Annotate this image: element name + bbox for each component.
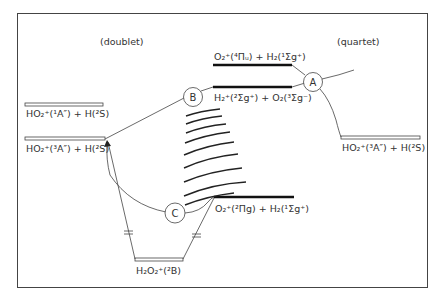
level-h2-2sigma-label: H₂⁺(²Σg⁺) + O₂(³Σg⁻) [214,92,312,103]
level-ho2-3a-right [341,136,420,139]
level-ho2-1a [25,103,103,106]
energy-level-diagram: (doublet) (quartet) HO₂⁺(¹A″) + H(²S) HO… [0,0,444,300]
quartet-label: (quartet) [337,36,380,47]
continuum-curves [184,109,246,205]
level-ho2-3a-left [25,137,105,140]
crossing-b: B [184,88,203,107]
level-h2o2 [135,258,183,261]
level-o2-2pi-label: O₂⁺(²Πg) + H₂(¹Σg⁺) [215,203,309,214]
crossing-a: A [304,73,323,92]
crossing-c: C [165,203,185,223]
doublet-label: (doublet) [100,36,144,47]
level-ho2-3a-right-label: HO₂⁺(³A″) + H(²S) [342,142,425,153]
level-o2-4pi-label: O₂⁺(⁴Πᵤ) + H₂(¹Σg⁺) [214,51,306,62]
svg-text:C: C [172,208,179,219]
level-h2o2-label: H₂O₂⁺(²B) [136,265,181,276]
svg-text:B: B [190,92,197,103]
axis-break-marks [124,231,201,237]
svg-text:A: A [310,77,317,88]
level-ho2-3a-left-label: HO₂⁺(³A″) + H(²S) [26,143,109,154]
level-ho2-1a-label: HO₂⁺(¹A″) + H(²S) [26,108,109,119]
